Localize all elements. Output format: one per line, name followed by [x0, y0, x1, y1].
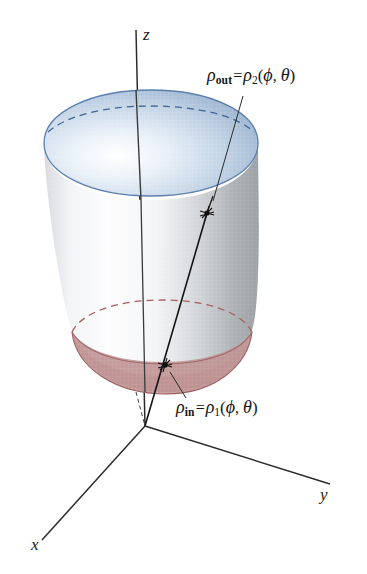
rho-in-subscript: in	[185, 406, 195, 418]
rho-in-close-paren: )	[252, 398, 258, 417]
axis-x	[42, 426, 145, 540]
rho-out-close-paren: )	[289, 66, 295, 85]
rho-in-equals: =	[195, 399, 206, 416]
rho-in-arg-theta: θ	[243, 397, 252, 417]
rho-out-rhs-symbol: ρ	[243, 65, 252, 85]
label-rho-out: ρout=ρ2(ϕ, θ)	[207, 66, 295, 87]
diagram-svg	[0, 0, 367, 574]
axis-label-z: z	[143, 26, 150, 43]
rho-out-subscript: out	[216, 74, 233, 86]
solid-top-surface	[44, 90, 258, 196]
rho-out-symbol: ρ	[207, 65, 216, 85]
label-rho-in: ρin=ρ1(ϕ, θ)	[176, 398, 258, 419]
axis-label-x: x	[31, 536, 39, 553]
rho-in-symbol: ρ	[176, 397, 185, 417]
figure-canvas: z y x ρout=ρ2(ϕ, θ) ρin=ρ1(ϕ, θ)	[0, 0, 367, 574]
rho-out-equals: =	[232, 67, 243, 84]
axis-y	[145, 426, 330, 484]
axis-label-y: y	[320, 486, 328, 503]
rho-in-arg-phi: ϕ	[226, 397, 235, 417]
rho-in-comma: ,	[235, 399, 239, 416]
rho-out-comma: ,	[273, 67, 277, 84]
rho-out-arg-phi: ϕ	[263, 65, 272, 85]
